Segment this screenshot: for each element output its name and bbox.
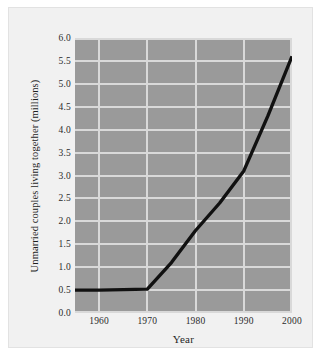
data-line-layer (75, 38, 292, 313)
y-axis-tick-label: 0.5 (41, 285, 71, 295)
y-axis-tick-label: 0.0 (41, 308, 71, 318)
y-axis-tick-labels: 0.00.51.01.52.02.53.03.54.04.55.05.56.0 (39, 38, 71, 313)
x-axis-tick-labels: 19601970198019902000 (75, 316, 292, 330)
y-axis-tick-label: 2.5 (41, 193, 71, 203)
series-line-unmarried-couples (75, 56, 292, 290)
chart-figure: Unmarried couples living together (milli… (0, 0, 323, 360)
y-axis-tick-label: 5.5 (41, 56, 71, 66)
x-axis-title: Year (75, 333, 292, 345)
y-axis-tick-label: 3.5 (41, 148, 71, 158)
x-axis-tick-label: 1990 (221, 316, 267, 326)
y-axis-tick-label: 4.5 (41, 102, 71, 112)
x-axis-tick-label: 1960 (76, 316, 122, 326)
y-axis-tick-label: 6.0 (41, 33, 71, 43)
y-axis-tick-label: 2.0 (41, 216, 71, 226)
y-axis-tick-label: 1.5 (41, 239, 71, 249)
y-axis-tick-label: 3.0 (41, 171, 71, 181)
chart-card: Unmarried couples living together (milli… (8, 7, 313, 348)
y-axis-title: Unmarried couples living together (milli… (29, 79, 40, 272)
y-axis-tick-label: 1.0 (41, 262, 71, 272)
y-axis-tick-label: 5.0 (41, 79, 71, 89)
y-axis-tick-label: 4.0 (41, 125, 71, 135)
plot-area (75, 38, 292, 313)
x-axis-tick-label: 1980 (173, 316, 219, 326)
x-axis-tick-label: 2000 (269, 316, 315, 326)
x-axis-tick-label: 1970 (124, 316, 170, 326)
